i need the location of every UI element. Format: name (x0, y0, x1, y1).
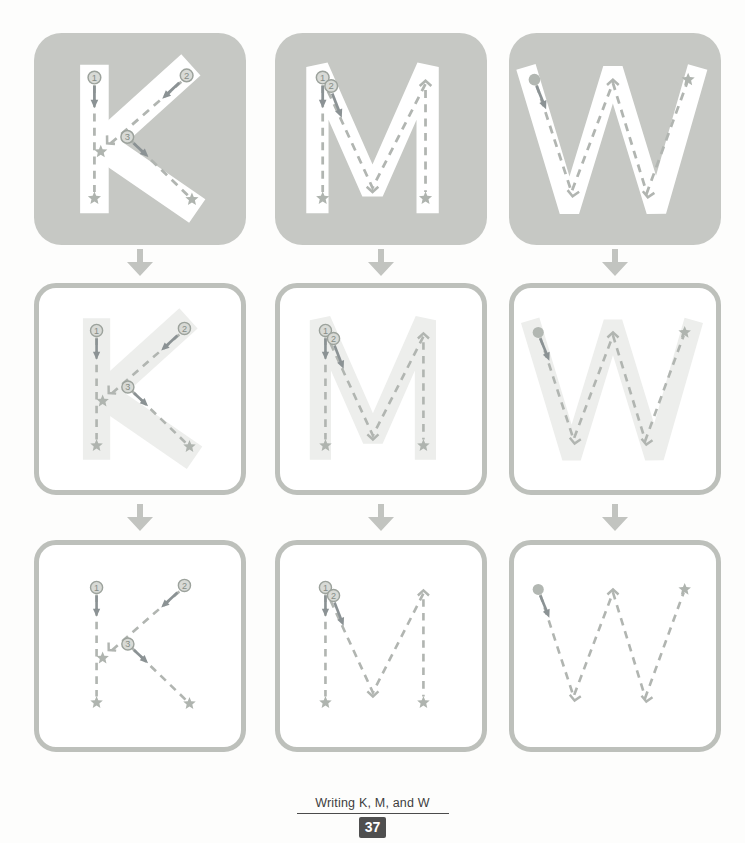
letter-k-trace-graphic: 123 (39, 545, 241, 747)
trace-card-k-guided: 123 (34, 283, 246, 495)
trace-card-m-guided: 12 (275, 283, 487, 495)
stroke-number-label: 1 (320, 72, 325, 83)
solid-tile-background (34, 33, 246, 245)
letter-w-trace-graphic (514, 288, 716, 490)
turn-chevron-icon (569, 695, 581, 702)
stroke-number-label: 1 (323, 583, 328, 593)
letter-glyph (530, 320, 694, 457)
trace-card-w-practice (509, 540, 721, 752)
down-arrow-icon (367, 249, 395, 277)
end-star-icon (90, 696, 103, 708)
stroke-number-label: 3 (125, 131, 130, 142)
stroke-number-label: 2 (329, 80, 334, 91)
direction-arrow-shaft (166, 592, 178, 603)
down-arrow-icon (126, 249, 154, 277)
trace-card-k-model: 123 (34, 33, 246, 245)
stroke-number-label: 2 (182, 324, 187, 334)
worksheet-page: 123121231212312 Writing K, M, and W 37 (0, 0, 745, 843)
direction-arrow-shaft (540, 596, 547, 613)
down-arrow-icon (367, 504, 395, 532)
letter-k-trace-graphic: 123 (39, 288, 241, 490)
down-arrow-icon (601, 504, 629, 532)
trace-card-w-guided (509, 283, 721, 495)
start-dot (533, 584, 544, 595)
stroke-number-label: 1 (323, 326, 328, 336)
stroke-number-label: 2 (182, 581, 187, 591)
footer-title: Writing K, M, and W (315, 796, 430, 811)
trace-card-w-model (509, 33, 721, 245)
stroke-number-label: 3 (125, 639, 130, 649)
start-dot (533, 327, 544, 338)
trace-card-m-practice: 12 (275, 540, 487, 752)
start-dot (529, 74, 541, 86)
down-arrow-icon (601, 249, 629, 277)
stroke-number-label: 1 (94, 583, 99, 593)
stroke-number-label: 3 (125, 382, 130, 392)
direction-arrow-head (93, 609, 100, 617)
letter-k-trace-graphic: 123 (34, 33, 246, 245)
end-star-icon (96, 652, 109, 664)
letter-m-trace-graphic: 12 (280, 545, 482, 747)
down-arrow-icon (126, 504, 154, 532)
letter-m-trace-graphic: 12 (275, 33, 487, 245)
stroke-number-label: 2 (331, 334, 336, 344)
stroke-number-label: 2 (331, 591, 336, 601)
trace-dash-path (331, 593, 424, 696)
trace-card-m-model: 12 (275, 33, 487, 245)
letter-w-trace-graphic (514, 545, 716, 747)
end-star-icon (417, 696, 430, 708)
page-number-badge: 37 (359, 817, 387, 838)
stroke-number-label: 1 (92, 72, 97, 83)
direction-arrow-head (322, 609, 329, 617)
footer: Writing K, M, and W 37 (0, 796, 745, 838)
stroke-number-label: 1 (94, 326, 99, 336)
trace-dash-path (540, 592, 683, 697)
end-star-icon (319, 696, 332, 708)
letter-m-trace-graphic: 12 (280, 288, 482, 490)
letter-w-trace-graphic (509, 33, 721, 245)
trace-card-k-practice: 123 (34, 540, 246, 752)
footer-rule (297, 813, 449, 814)
stroke-number-label: 2 (184, 70, 189, 81)
